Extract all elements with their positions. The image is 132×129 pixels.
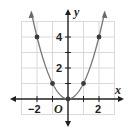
x-tick-label-2: 2 [95,103,101,115]
parabola-graph: y x O −2 2 2 4 [0,0,132,129]
x-tick-label-neg2: −2 [28,103,41,115]
curve-arrow-right-icon [102,11,107,19]
y-tick-label-2: 2 [56,62,62,74]
point-neg1-1 [50,81,55,86]
curve-arrow-left-icon [29,11,34,19]
point-1-1 [81,81,86,86]
y-axis-label: y [72,5,80,19]
origin-label: O [54,102,63,116]
y-tick-label-4: 4 [56,31,63,43]
point-neg2-4 [35,35,40,40]
x-axis-label: x [114,83,121,97]
point-2-4 [97,35,102,40]
point-0-0 [66,97,71,102]
